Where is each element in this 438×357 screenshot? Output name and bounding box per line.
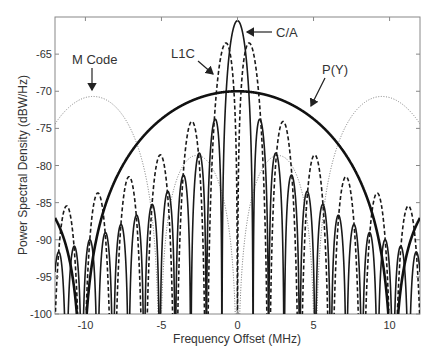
y-tick-label: -70 bbox=[36, 85, 52, 97]
x-tick-label: 10 bbox=[383, 319, 395, 331]
y-tick-label: -85 bbox=[36, 197, 52, 209]
psd-chart: -10-50510-65-70-75-80-85-90-95-100 Frequ… bbox=[0, 0, 438, 357]
x-tick-label: -10 bbox=[77, 319, 93, 331]
x-tick-label: 5 bbox=[310, 319, 316, 331]
y-tick-label: -65 bbox=[36, 48, 52, 60]
annotation-ca: C/A bbox=[276, 25, 298, 40]
y-tick-label: -75 bbox=[36, 122, 52, 134]
x-tick-label: -5 bbox=[157, 319, 167, 331]
annotation-l1c: L1C bbox=[171, 46, 195, 61]
y-axis-label: Power Spectral Density (dBW/Hz) bbox=[16, 75, 30, 255]
annotation-mcode: M Code bbox=[72, 52, 118, 67]
y-tick-label: -95 bbox=[36, 271, 52, 283]
x-tick-label: 0 bbox=[234, 319, 240, 331]
x-axis-label: Frequency Offset (MHz) bbox=[173, 332, 301, 346]
annotation-py: P(Y) bbox=[322, 62, 348, 77]
y-tick-label: -90 bbox=[36, 234, 52, 246]
y-tick-label: -80 bbox=[36, 160, 52, 172]
y-tick-label: -100 bbox=[30, 308, 52, 320]
